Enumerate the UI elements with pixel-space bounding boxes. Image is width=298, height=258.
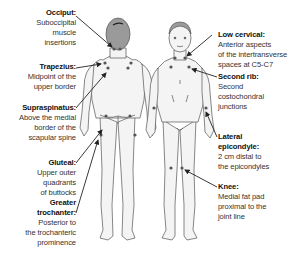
label-description: Anterior aspects of the intertransverse … [218,40,298,70]
label-description: Midpoint of the upper border [2,72,76,92]
label-description: Posterior to the trochanteric prominence [2,218,76,248]
label-title: Second rib: [218,72,298,82]
label-title: Greater trochanter: [2,198,76,218]
anterior-figure [146,22,214,240]
label-description: Suboccipital muscle insertions [2,18,76,48]
label-description: 2 cm distal to the epicondyles [218,152,298,172]
label-title: Low cervical: [218,30,298,40]
label-title: Trapezius: [2,62,76,72]
label-gluteal: Gluteal: Upper outer quadrants of buttoc… [2,158,76,198]
label-description: Upper outer quadrants of buttocks [2,168,76,198]
tender-points-diagram: Occiput: Suboccipital muscle insertions … [0,0,298,258]
label-supraspinatus: Supraspinatus: Above the medial border o… [0,103,76,143]
label-title: Occiput: [2,8,76,18]
label-description: Above the medial border of the scapular … [0,113,76,143]
posterior-figure [80,18,156,240]
label-knee: Knee: Medial fat pad proximal to the joi… [218,182,298,222]
label-description: Medial fat pad proximal to the joint lin… [218,192,298,222]
label-occiput: Occiput: Suboccipital muscle insertions [2,8,76,48]
label-title: Gluteal: [2,158,76,168]
label-trapezius: Trapezius: Midpoint of the upper border [2,62,76,92]
label-lateral-epicondyle: Lateral epicondyle: 2 cm distal to the e… [218,132,298,172]
label-title: Lateral epicondyle: [218,132,298,152]
label-second-rib: Second rib: Second costochondral junctio… [218,72,298,112]
label-description: Second costochondral junctions [218,82,298,112]
label-greater-trochanter: Greater trochanter: Posterior to the tro… [2,198,76,248]
label-title: Supraspinatus: [0,103,76,113]
label-title: Knee: [218,182,298,192]
label-low-cervical: Low cervical: Anterior aspects of the in… [218,30,298,70]
